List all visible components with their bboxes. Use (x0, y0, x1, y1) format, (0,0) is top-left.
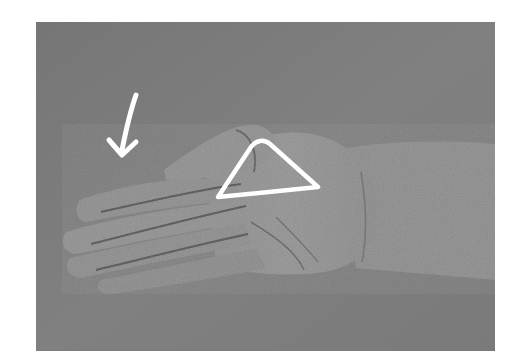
hand-photo: Grayscale photograph of an open left han… (36, 22, 495, 351)
